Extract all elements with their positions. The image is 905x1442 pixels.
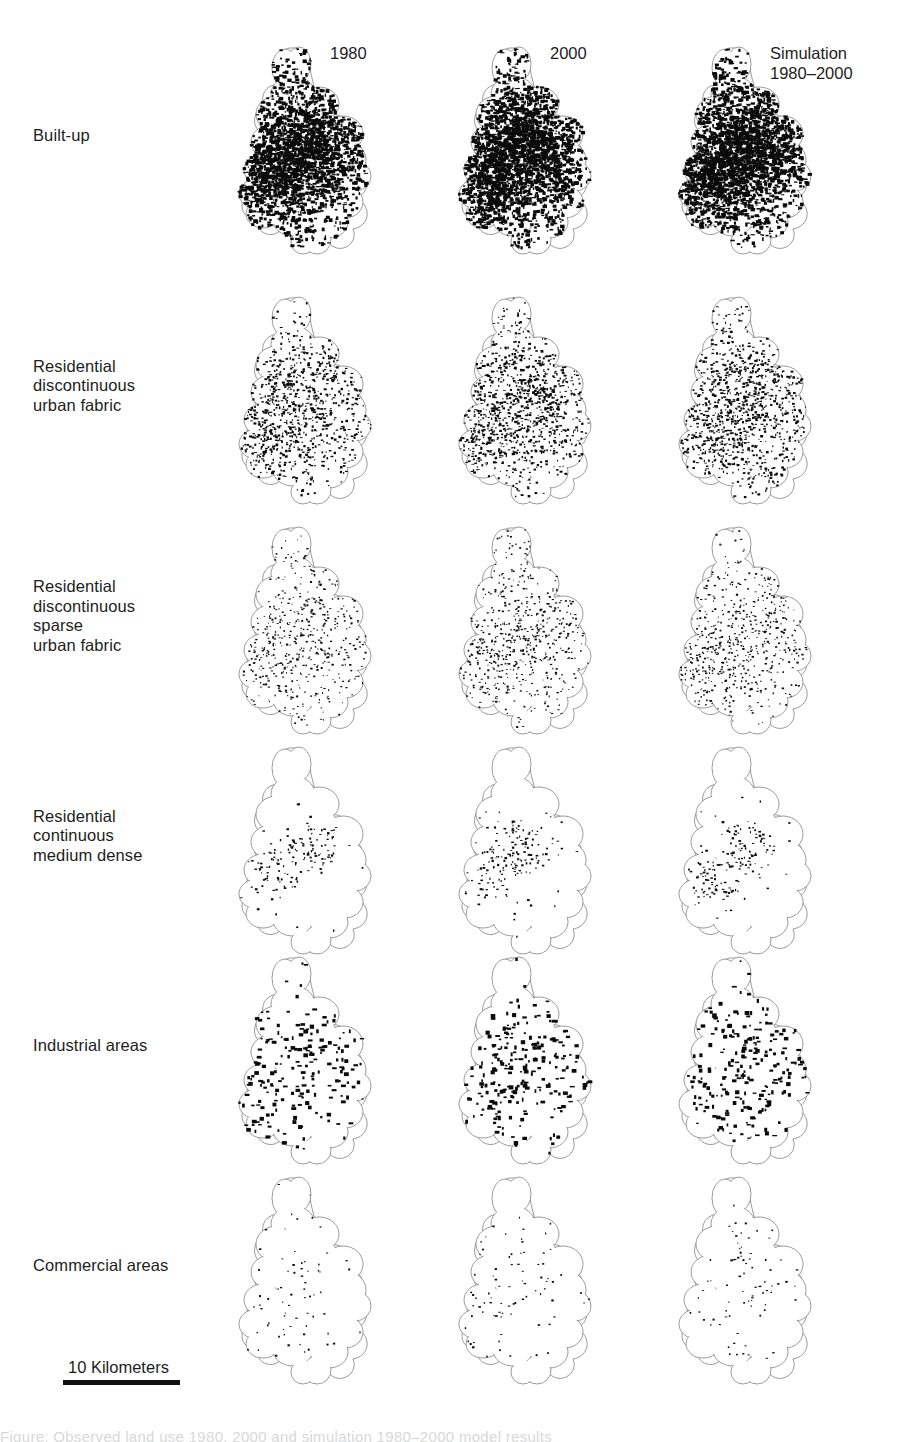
map-residential-discontinuous-sparse-urban-fabric-sim-1980-2000 <box>673 522 833 754</box>
map-built-up-obs-1980 <box>233 42 393 274</box>
scale-bar: 10 Kilometers <box>63 1358 263 1385</box>
row-label-line: urban fabric <box>33 636 233 656</box>
row-label-built-up: Built-up <box>33 126 233 146</box>
row-label-line: medium dense <box>33 846 233 866</box>
map-residential-discontinuous-urban-fabric-obs-2000 <box>453 292 613 524</box>
map-residential-discontinuous-urban-fabric-obs-1980 <box>233 292 393 524</box>
map-residential-discontinuous-sparse-urban-fabric-obs-2000 <box>453 522 613 754</box>
row-label-line: discontinuous <box>33 597 233 617</box>
map-industrial-areas-obs-1980 <box>233 952 393 1184</box>
row-label-line: Residential <box>33 577 233 597</box>
caption-strip: Figure: Observed land use 1980, 2000 and… <box>0 1428 905 1442</box>
row-label-line: sparse <box>33 616 233 636</box>
row-label-residential-discontinuous-urban-fabric: Residentialdiscontinuousurban fabric <box>33 357 233 416</box>
map-residential-continuous-medium-dense-obs-2000 <box>453 742 613 974</box>
row-label-line: Industrial areas <box>33 1036 233 1056</box>
row-label-line: Residential <box>33 807 233 827</box>
row-label-line: discontinuous <box>33 376 233 396</box>
row-label-line: Commercial areas <box>33 1256 233 1276</box>
map-residential-continuous-medium-dense-sim-1980-2000 <box>673 742 833 974</box>
map-residential-continuous-medium-dense-obs-1980 <box>233 742 393 974</box>
map-industrial-areas-sim-1980-2000 <box>673 952 833 1184</box>
map-built-up-sim-1980-2000 <box>673 42 833 274</box>
scale-bar-rule <box>63 1380 180 1385</box>
map-residential-discontinuous-urban-fabric-sim-1980-2000 <box>673 292 833 524</box>
land-use-map-figure: 19802000Simulation1980–2000Built-upResid… <box>0 0 905 1442</box>
row-label-industrial-areas: Industrial areas <box>33 1036 233 1056</box>
row-label-line: Residential <box>33 357 233 377</box>
map-commercial-areas-obs-2000 <box>453 1172 613 1404</box>
map-commercial-areas-sim-1980-2000 <box>673 1172 833 1404</box>
scale-bar-label: 10 Kilometers <box>63 1358 263 1377</box>
row-label-line: Built-up <box>33 126 233 146</box>
row-label-line: urban fabric <box>33 396 233 416</box>
map-industrial-areas-obs-2000 <box>453 952 613 1184</box>
map-built-up-obs-2000 <box>453 42 613 274</box>
map-residential-discontinuous-sparse-urban-fabric-obs-1980 <box>233 522 393 754</box>
row-label-line: continuous <box>33 826 233 846</box>
row-label-residential-continuous-medium-dense: Residentialcontinuousmedium dense <box>33 807 233 866</box>
row-label-residential-discontinuous-sparse-urban-fabric: Residentialdiscontinuoussparseurban fabr… <box>33 577 233 655</box>
row-label-commercial-areas: Commercial areas <box>33 1256 233 1276</box>
